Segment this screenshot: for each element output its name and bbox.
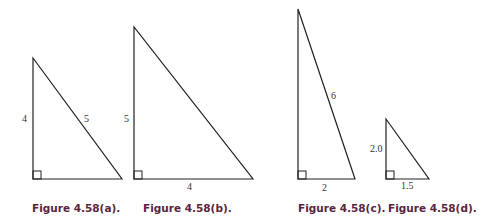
right-angle-marker-c (298, 171, 306, 179)
right-angle-marker-a (33, 171, 41, 179)
triangle-d-shape (386, 119, 429, 179)
triangle-c: 6 2 (298, 9, 355, 193)
triangle-a-shape (33, 58, 122, 179)
triangle-d: 2.0 1.5 (370, 119, 429, 191)
caption-figure-b: Figure 4.58(b). (143, 202, 232, 214)
caption-figure-d: Figure 4.58(d). (388, 202, 477, 214)
triangle-a-vertical-label: 4 (22, 113, 27, 124)
triangle-a: 4 5 (22, 58, 122, 179)
triangle-b-vertical-label: 5 (124, 113, 129, 124)
caption-figure-a: Figure 4.58(a). (32, 202, 120, 214)
triangle-c-shape (298, 9, 355, 179)
triangle-b: 5 4 (124, 27, 253, 192)
caption-figure-c: Figure 4.58(c). (298, 202, 385, 214)
figures-canvas: 4 5 5 4 6 2 2.0 1.5 (0, 0, 492, 222)
triangle-d-base-label: 1.5 (401, 180, 414, 191)
triangle-d-vertical-label: 2.0 (370, 143, 383, 154)
right-angle-marker-b (134, 171, 142, 179)
triangle-b-base-label: 4 (187, 181, 192, 192)
triangle-c-base-label: 2 (322, 182, 327, 193)
triangle-a-hypotenuse-label: 5 (84, 113, 89, 124)
triangle-b-shape (134, 27, 253, 179)
right-angle-marker-d (386, 171, 394, 179)
triangle-c-hypotenuse-label: 6 (331, 90, 336, 101)
